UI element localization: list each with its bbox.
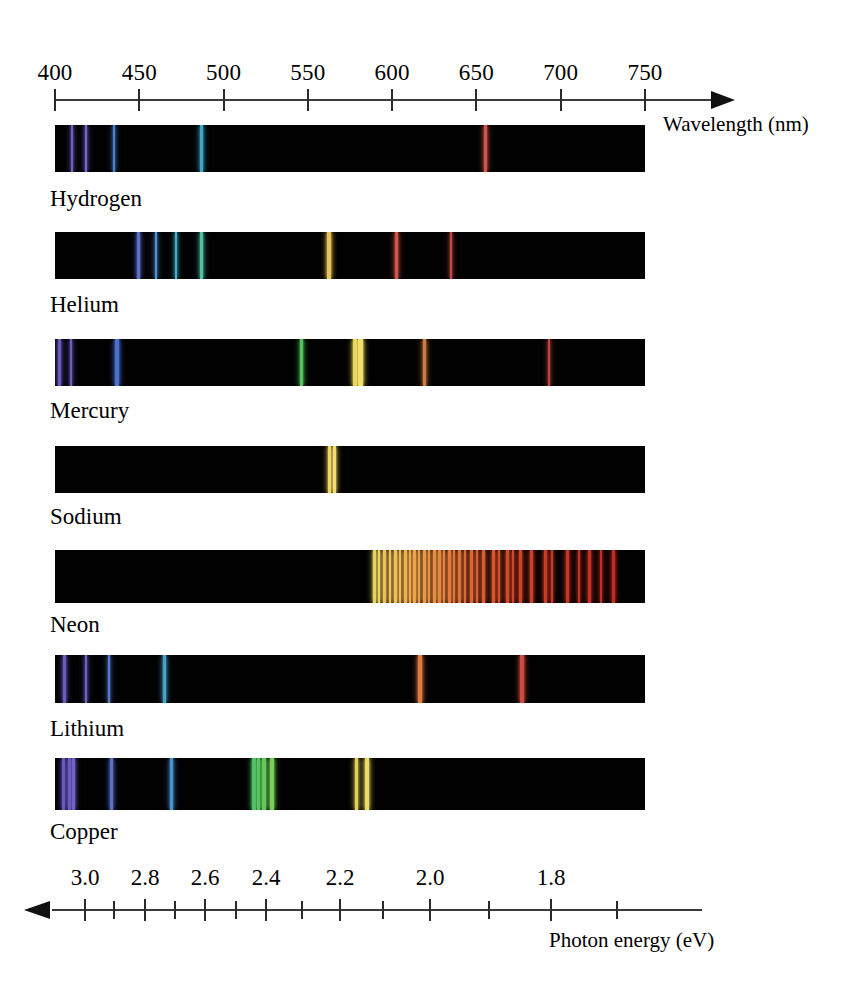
- emission-line: [482, 550, 485, 603]
- emission-line: [418, 655, 422, 703]
- emission-line: [520, 655, 524, 703]
- emission-line: [328, 446, 331, 493]
- emission-line: [257, 758, 260, 810]
- emission-line: [175, 232, 177, 279]
- energy-tick-major: [339, 899, 341, 921]
- energy-tick-label: 3.0: [71, 865, 100, 891]
- wavelength-tick-label: 450: [122, 60, 157, 86]
- emission-line: [450, 232, 452, 279]
- emission-line: [333, 446, 336, 493]
- spectrum-label-sodium: Sodium: [50, 504, 122, 530]
- spectrum-band-copper: [55, 758, 645, 810]
- emission-line: [470, 550, 473, 603]
- emission-line: [115, 339, 119, 386]
- emission-line: [170, 758, 173, 810]
- emission-line: [506, 550, 509, 603]
- energy-tick-minor: [235, 901, 237, 919]
- emission-line: [155, 232, 157, 279]
- emission-line: [448, 550, 451, 603]
- emission-line: [423, 550, 426, 603]
- emission-line: [519, 550, 522, 603]
- emission-line: [484, 125, 487, 172]
- energy-tick-minor: [113, 901, 115, 919]
- wavelength-tick-label: 700: [543, 60, 578, 86]
- energy-tick-minor: [301, 901, 303, 919]
- energy-tick-minor: [174, 901, 176, 919]
- emission-line: [108, 655, 110, 703]
- emission-line: [404, 550, 407, 603]
- wavelength-tick: [54, 89, 56, 111]
- emission-line: [578, 550, 580, 603]
- energy-arrow-icon: [24, 901, 50, 919]
- energy-tick-major: [144, 899, 146, 921]
- energy-tick-label: 1.8: [537, 865, 566, 891]
- wavelength-tick: [475, 89, 477, 111]
- energy-tick-minor: [382, 901, 384, 919]
- emission-line: [458, 550, 461, 603]
- emission-line: [353, 339, 357, 386]
- wavelength-tick-label: 550: [290, 60, 325, 86]
- emission-line: [443, 550, 445, 603]
- emission-line: [394, 550, 397, 603]
- emission-line: [476, 550, 478, 603]
- wavelength-axis-line: [55, 99, 721, 101]
- spectrum-label-lithium: Lithium: [50, 716, 124, 742]
- emission-line: [137, 232, 140, 279]
- spectrum-label-helium: Helium: [50, 292, 119, 318]
- wavelength-tick: [223, 89, 225, 111]
- wavelength-axis-title: Wavelength (nm): [663, 112, 809, 137]
- emission-line: [548, 339, 550, 386]
- emission-line: [413, 550, 416, 603]
- emission-line: [498, 550, 500, 603]
- spectrum-band-helium: [55, 232, 645, 279]
- wavelength-tick-label: 400: [37, 60, 72, 86]
- emission-line: [378, 550, 380, 603]
- emission-line: [438, 550, 441, 603]
- energy-tick-major: [429, 899, 431, 921]
- spectrum-band-hydrogen: [55, 125, 645, 172]
- energy-tick-minor: [488, 901, 490, 919]
- emission-line: [72, 758, 75, 810]
- energy-tick-label: 2.6: [191, 865, 220, 891]
- emission-line: [566, 550, 569, 603]
- emission-line: [399, 550, 401, 603]
- energy-tick-major: [204, 899, 206, 921]
- emission-line: [270, 758, 274, 810]
- energy-tick-major: [84, 899, 86, 921]
- emission-line: [70, 339, 72, 386]
- emission-line: [365, 758, 369, 810]
- energy-tick-label: 2.2: [326, 865, 355, 891]
- emission-line: [358, 339, 363, 386]
- emission-line: [409, 550, 411, 603]
- energy-tick-major: [550, 899, 552, 921]
- wavelength-axis: 400450500550600650700750 Wavelength (nm): [0, 60, 844, 118]
- wavelength-tick-label: 600: [375, 60, 410, 86]
- energy-tick-minor: [616, 901, 618, 919]
- emission-line: [58, 339, 61, 386]
- emission-line: [612, 550, 615, 603]
- emission-line: [428, 550, 430, 603]
- emission-line: [492, 550, 495, 603]
- emission-line: [327, 232, 331, 279]
- emission-line: [71, 125, 73, 172]
- emission-line: [262, 758, 266, 810]
- emission-line: [512, 550, 514, 603]
- emission-line: [355, 758, 358, 810]
- emission-line: [464, 550, 466, 603]
- wavelength-tick: [644, 89, 646, 111]
- emission-line: [200, 232, 203, 279]
- emission-line: [423, 339, 426, 386]
- energy-tick-label: 2.4: [252, 865, 281, 891]
- emission-line: [418, 550, 420, 603]
- spectrum-label-hydrogen: Hydrogen: [50, 186, 142, 212]
- spectrum-band-lithium: [55, 655, 645, 703]
- energy-axis-line: [52, 909, 702, 911]
- energy-tick-label: 2.8: [131, 865, 160, 891]
- emission-line: [544, 550, 547, 603]
- emission-line: [395, 232, 398, 279]
- spectrum-label-copper: Copper: [50, 819, 118, 845]
- emission-line: [113, 125, 115, 172]
- wavelength-tick: [307, 89, 309, 111]
- wavelength-tick: [391, 89, 393, 111]
- wavelength-tick: [138, 89, 140, 111]
